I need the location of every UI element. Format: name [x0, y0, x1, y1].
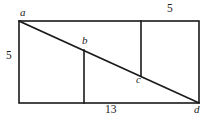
vertex-label-c: c: [136, 74, 141, 85]
figure-canvas: [0, 0, 215, 120]
geometry-figure: a b c d 5 5 13: [0, 0, 215, 120]
vertex-label-b: b: [82, 35, 88, 46]
vertex-label-d: d: [194, 104, 200, 115]
measure-label-top-right-segment: 5: [167, 3, 173, 15]
measure-label-left-side: 5: [6, 50, 12, 62]
vertex-label-a: a: [20, 7, 26, 18]
diagonal-line-ad: [19, 21, 199, 103]
measure-label-bottom-side: 13: [105, 104, 117, 116]
